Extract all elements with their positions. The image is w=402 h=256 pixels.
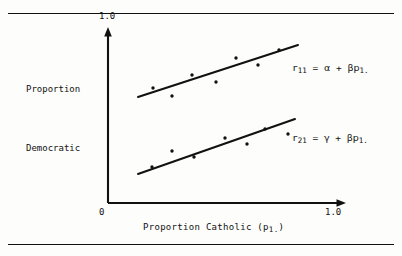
equation-upper-slope: βp xyxy=(347,62,359,73)
data-point xyxy=(286,132,289,135)
data-point xyxy=(192,155,195,158)
data-point xyxy=(277,48,280,51)
series-upper-points xyxy=(151,48,280,97)
series-lower-regression-line xyxy=(138,119,295,174)
equation-lower-annotation: r21 = γ + βp1. xyxy=(292,132,368,145)
x-axis xyxy=(108,199,346,207)
data-point xyxy=(263,127,266,130)
y-axis-label-line-1: Proportion xyxy=(26,84,80,94)
equation-upper-equals: = xyxy=(307,62,324,73)
equation-upper-plus: + xyxy=(330,62,347,73)
y-axis-max-tick-label: 1.0 xyxy=(99,11,115,21)
right-arrow-icon xyxy=(337,199,347,207)
up-arrow-icon xyxy=(104,27,112,37)
data-point xyxy=(170,149,173,152)
data-point xyxy=(256,63,259,66)
data-point xyxy=(150,165,153,168)
equation-lower-equals: = xyxy=(307,132,324,143)
x-axis-title-close: ) xyxy=(278,222,284,232)
equation-upper-annotation: r11 = α + βp1. xyxy=(292,62,369,75)
x-axis-title: Proportion Catholic (p1.) xyxy=(143,222,284,234)
equation-upper-lhs-subscript: 11 xyxy=(298,66,307,75)
y-axis-label-line-2: Democratic xyxy=(26,143,80,153)
equation-lower-slope: βp xyxy=(347,132,359,143)
figure-container: 1.0 0 1.0 Proportion Democratic Proporti… xyxy=(0,0,402,256)
equation-lower-lhs-subscript: 21 xyxy=(298,136,307,145)
data-point xyxy=(234,56,237,59)
equation-upper-slope-subscript: 1. xyxy=(359,66,368,75)
series-upper-regression-line xyxy=(138,45,298,97)
y-axis-origin-label: 0 xyxy=(99,207,104,217)
data-point xyxy=(190,73,193,76)
x-axis-max-tick-label: 1.0 xyxy=(325,207,341,217)
data-point xyxy=(223,136,226,139)
equation-lower-slope-subscript: 1. xyxy=(359,136,368,145)
data-point xyxy=(214,80,217,83)
x-axis-title-main: Proportion Catholic (p xyxy=(143,222,269,232)
data-point xyxy=(245,142,248,145)
scatter-plot-canvas xyxy=(0,0,402,256)
x-axis-title-subscript: 1. xyxy=(269,225,279,234)
equation-lower-plus: + xyxy=(330,132,347,143)
data-point xyxy=(170,94,173,97)
data-point xyxy=(151,86,154,89)
y-axis xyxy=(104,27,112,203)
